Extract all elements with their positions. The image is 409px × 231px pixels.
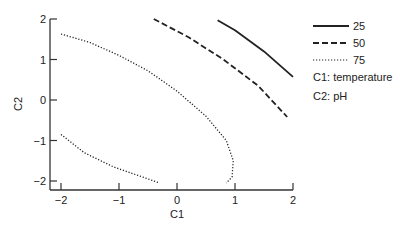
x-axis-label: C1: [170, 208, 184, 220]
dashed-line-icon: [313, 40, 349, 46]
contour-50: [154, 19, 287, 117]
legend-item-50: 50: [313, 34, 392, 51]
legend-label: 25: [353, 17, 365, 35]
legend-note-c1: C1: temperature: [313, 68, 392, 87]
y-tick-label: 0: [40, 94, 46, 106]
legend-item-75: 75: [313, 51, 392, 68]
y-tick-label: 2: [40, 13, 46, 25]
legend-item-25: 25: [313, 17, 392, 34]
x-tick-label: −2: [55, 194, 68, 206]
axes: [50, 19, 293, 190]
dotted-line-icon: [313, 57, 349, 63]
y-tick-label: −2: [33, 175, 46, 187]
solid-line-icon: [313, 23, 349, 29]
x-tick-label: −1: [113, 194, 126, 206]
y-tick-label: −1: [33, 135, 46, 147]
x-tick-label: 1: [232, 194, 238, 206]
legend-note-c2: C2: pH: [313, 87, 392, 106]
y-tick-label: 1: [40, 54, 46, 66]
x-tick-label: 0: [174, 194, 180, 206]
curves: [61, 19, 293, 183]
x-tick-label: 2: [290, 194, 296, 206]
legend-label: 75: [353, 51, 365, 69]
contour-75: [61, 34, 233, 183]
contour-25: [218, 20, 293, 77]
contour-75: [61, 134, 160, 183]
legend-label: 50: [353, 34, 365, 52]
legend: 25 50 75 C1: temperature C2: pH: [313, 17, 392, 106]
ticks: −2−1012210−1−2: [33, 13, 296, 206]
y-axis-label: C2: [12, 97, 24, 111]
